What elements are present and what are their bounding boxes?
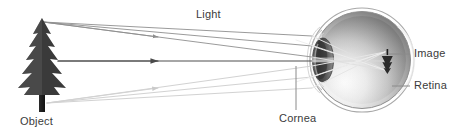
diagram-canvas (0, 0, 460, 134)
pine-tree (18, 18, 66, 112)
label-image: Image (414, 47, 446, 59)
image-trunk (387, 49, 389, 55)
ray-top-arrow (43, 22, 158, 37)
ray-bottom-arrow (47, 88, 158, 103)
tree-foliage-light-side (18, 18, 42, 95)
eye-optics-diagram: Light Object Cornea Image Retina (0, 0, 460, 134)
label-cornea: Cornea (279, 112, 316, 124)
label-object: Object (20, 115, 53, 127)
label-light: Light (196, 8, 221, 20)
label-retina: Retina (414, 79, 447, 91)
